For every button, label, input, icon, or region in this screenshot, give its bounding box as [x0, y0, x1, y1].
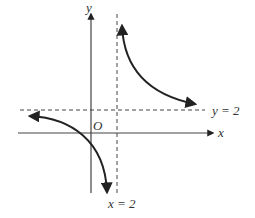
horizontal-asymptote-label: y = 2: [210, 103, 240, 118]
upper-right-branch: [122, 26, 195, 104]
origin-label: O: [93, 118, 103, 133]
x-axis-label: x: [217, 125, 224, 140]
y-axis-label: y: [84, 0, 92, 15]
hyperbola-graph: y x O y = 2 x = 2: [0, 0, 255, 218]
vertical-asymptote-label: x = 2: [107, 196, 136, 211]
